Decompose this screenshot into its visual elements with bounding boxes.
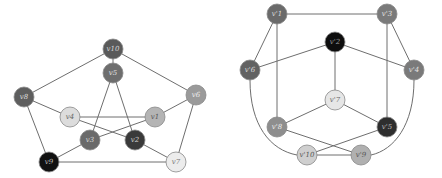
node-v8p: v'8: [267, 117, 287, 137]
node-label: v'5: [382, 123, 393, 131]
node-label: v2: [131, 136, 140, 144]
edge-v10-v6: [113, 49, 196, 95]
node-v5: v5: [103, 63, 123, 83]
node-label: v'10: [300, 151, 315, 159]
edge-v6-v7: [176, 95, 196, 162]
node-label: v'7: [330, 96, 341, 104]
node-v6p: v'6: [240, 60, 260, 80]
node-label: v'8: [272, 123, 283, 131]
node-label: v'2: [330, 38, 341, 46]
node-v3p: v'3: [377, 4, 397, 24]
node-label: v7: [172, 158, 181, 166]
node-v2p: v'2: [325, 32, 345, 52]
node-label: v4: [66, 113, 74, 121]
edge-v5-v2: [113, 73, 135, 140]
node-label: v'4: [409, 66, 419, 74]
node-v10: v10: [103, 39, 123, 59]
node-label: v1: [151, 113, 159, 121]
node-label: v8: [20, 93, 29, 101]
nodes-layer: v10v5v8v6v4v1v3v2v9v7v'1v'3v'2v'6v'4v'7v…: [14, 4, 424, 172]
node-label: v3: [86, 136, 95, 144]
node-v1p: v'1: [267, 4, 287, 24]
node-v4: v4: [60, 107, 80, 127]
edge-v4p-v9p: [371, 80, 414, 155]
node-v8: v8: [14, 87, 34, 107]
edge-v5-v3: [90, 73, 113, 140]
edge-v10-v8: [24, 49, 113, 97]
right-graph-nodes: v'1v'3v'2v'6v'4v'7v'8v'5v'10v'9: [240, 4, 424, 165]
node-v3: v3: [80, 130, 100, 150]
node-label: v5: [109, 69, 118, 77]
graph-isomorphism-figure: v10v5v8v6v4v1v3v2v9v7v'1v'3v'2v'6v'4v'7v…: [0, 0, 442, 178]
node-v9p: v'9: [351, 145, 371, 165]
edge-v2p-v6p: [250, 42, 335, 70]
node-label: v'6: [245, 66, 256, 74]
node-v4p: v'4: [404, 60, 424, 80]
node-v10p: v'10: [297, 145, 317, 165]
node-v7p: v'7: [325, 90, 345, 110]
node-v7: v7: [166, 152, 186, 172]
node-label: v10: [107, 45, 120, 53]
node-v2: v2: [125, 130, 145, 150]
node-label: v'9: [356, 151, 367, 159]
node-label: v'1: [272, 10, 282, 18]
node-v5p: v'5: [377, 117, 397, 137]
node-v9: v9: [39, 152, 59, 172]
node-v6: v6: [186, 85, 206, 105]
node-label: v9: [45, 158, 54, 166]
node-label: v6: [192, 91, 201, 99]
graph-canvas: v10v5v8v6v4v1v3v2v9v7v'1v'3v'2v'6v'4v'7v…: [0, 0, 442, 178]
node-label: v'3: [382, 10, 393, 18]
node-v1: v1: [145, 107, 165, 127]
